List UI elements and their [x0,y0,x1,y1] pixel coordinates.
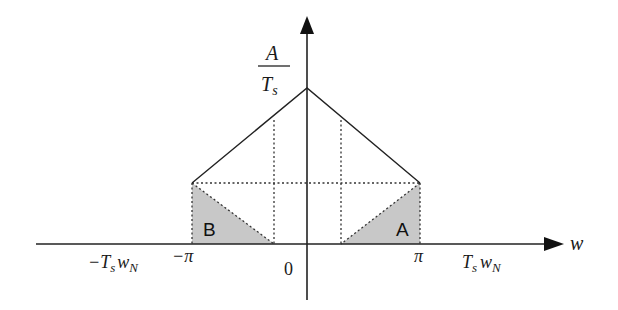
spectrum-diagram: A Ts w −TswN −π 0 π TswN B A [0,0,618,310]
tick-neg-ts-wn: −TswN [88,252,139,275]
region-a-label: A [396,219,409,240]
y-axis-arrow-icon [300,16,314,34]
tick-ts-wn: TswN [462,252,502,275]
spectrum-outline [192,88,420,183]
tick-neg-pi: −π [172,246,194,266]
tick-pi: π [414,246,424,266]
region-b-label: B [203,219,216,240]
y-label-denominator: Ts [261,73,278,98]
tick-zero: 0 [284,259,293,279]
y-label-numerator: A [264,42,279,64]
x-axis-label: w [570,232,584,254]
x-axis-arrow-icon [544,237,564,251]
